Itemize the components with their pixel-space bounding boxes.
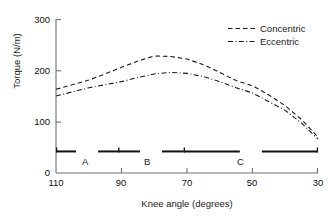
phase-label-b: B (142, 157, 152, 167)
y-tick-label-0: 0 (14, 168, 50, 178)
phase-label-a: A (80, 157, 90, 167)
phase-label-c: C (235, 157, 246, 167)
x-tick-label-70: 70 (173, 178, 201, 188)
y-axis-title-wrap: Torque (N/m) (10, 21, 24, 101)
x-tick-label-90: 90 (107, 178, 135, 188)
legend-label-eccentric: Eccentric (260, 36, 299, 47)
y-tick-label-100: 100 (14, 117, 50, 127)
y-axis-title: Torque (N/m) (10, 21, 24, 101)
phase-annotation-bar (56, 147, 318, 152)
legend-label-concentric: Concentric (260, 23, 305, 34)
x-tick-label-50: 50 (238, 178, 266, 188)
x-axis-title: Knee angle (degrees) (56, 198, 318, 209)
series-line-concentric (56, 56, 318, 137)
x-tick-label-110: 110 (42, 178, 70, 188)
series-line-eccentric (56, 72, 318, 139)
x-tick-label-30: 30 (304, 178, 332, 188)
data-series-layer (56, 56, 318, 139)
torque-knee-angle-chart: 300 200 100 0 110 90 70 50 30 Torque (N/… (0, 0, 332, 219)
